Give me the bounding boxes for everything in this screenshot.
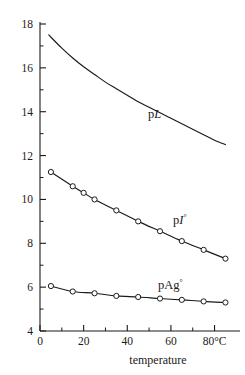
x-tick-label: 20: [78, 335, 90, 347]
data-point-marker-pAg: [179, 297, 184, 302]
y-axis-tick-labels: 4681012141618: [22, 18, 34, 337]
x-axis-tick-labels: 020406080°C: [37, 335, 227, 347]
data-point-marker-pI: [136, 219, 141, 224]
chart-figure: 4681012141618 020406080°C temperature pL…: [0, 0, 245, 375]
x-axis-major-ticks: [40, 325, 215, 331]
data-point-marker-pI: [201, 247, 206, 252]
data-point-marker-pAg: [114, 293, 119, 298]
x-tick-label: 0: [37, 335, 43, 347]
data-point-marker-pAg: [48, 283, 53, 288]
data-point-marker-pAg: [157, 296, 162, 301]
x-axis: 020406080°C temperature: [37, 325, 240, 367]
series-label-pL: pL: [148, 107, 161, 121]
data-point-marker-pAg: [223, 300, 228, 305]
data-point-marker-pAg: [92, 291, 97, 296]
series-label-pAg: pAg°: [158, 278, 183, 292]
x-tick-label: 80°C: [203, 335, 227, 347]
y-tick-label: 4: [27, 325, 33, 337]
y-tick-label: 16: [22, 62, 34, 74]
y-tick-label: 6: [27, 281, 33, 293]
series-markers: [48, 169, 228, 305]
series-annotations: pLpI°pAg°: [148, 107, 187, 292]
y-tick-label: 18: [22, 18, 34, 30]
data-point-marker-pI: [114, 208, 119, 213]
data-point-marker-pI: [157, 229, 162, 234]
series-curve-pL: [49, 35, 226, 145]
data-point-marker-pAg: [201, 299, 206, 304]
data-point-marker-pI: [70, 184, 75, 189]
x-tick-label: 60: [165, 335, 177, 347]
series-label-pI: pI°: [173, 213, 187, 227]
x-tick-label: 40: [122, 335, 134, 347]
data-point-marker-pI: [92, 197, 97, 202]
data-point-marker-pAg: [70, 289, 75, 294]
x-axis-title: temperature: [129, 353, 186, 367]
data-point-marker-pI: [179, 238, 184, 243]
data-point-marker-pI: [48, 169, 53, 174]
data-point-marker-pI: [81, 190, 86, 195]
data-point-marker-pAg: [136, 294, 141, 299]
data-point-marker-pI: [223, 256, 228, 261]
series-curve-pI: [51, 172, 226, 259]
y-axis: 4681012141618: [22, 18, 47, 337]
y-tick-label: 12: [22, 150, 34, 162]
y-tick-label: 14: [22, 106, 34, 118]
y-tick-label: 10: [22, 193, 34, 205]
chart-plot-area: 4681012141618 020406080°C temperature pL…: [0, 0, 245, 375]
y-tick-label: 8: [27, 237, 33, 249]
series-curves: [49, 35, 226, 303]
